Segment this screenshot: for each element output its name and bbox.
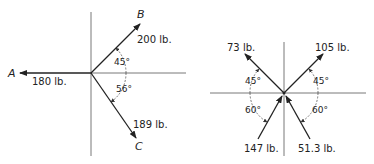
angle-45-right: 45° [313, 76, 329, 86]
angle-45: 45° [114, 57, 130, 67]
vector-105 [284, 54, 323, 93]
label-b-magnitude: 200 lb. [137, 34, 172, 45]
label-a: A [7, 67, 16, 80]
label-73: 73 lb. [227, 42, 255, 53]
angle-60-left: 60° [245, 105, 261, 115]
vector-51-3 [286, 96, 310, 139]
label-147: 147 lb. [244, 143, 279, 154]
angle-56: 56° [116, 84, 132, 94]
label-105: 105 lb. [315, 42, 350, 53]
vector-73 [245, 54, 284, 93]
force-diagrams: B 200 lb. 45° A 180 lb. 56° 189 lb. C 73… [0, 0, 374, 164]
label-51-3: 51.3 lb. [298, 143, 336, 154]
label-c-magnitude: 189 lb. [133, 119, 168, 130]
vector-c [91, 73, 136, 138]
vector-147 [258, 96, 282, 139]
angle-60-right: 60° [312, 105, 328, 115]
label-c: C [135, 140, 143, 153]
origin-point [283, 92, 286, 95]
label-b: B [137, 8, 145, 21]
label-a-magnitude: 180 lb. [32, 76, 67, 87]
right-diagram: 73 lb. 105 lb. 45° 45° 60° 60° 147 lb. 5… [210, 42, 366, 156]
angle-45-left: 45° [245, 76, 261, 86]
left-diagram: B 200 lb. 45° A 180 lb. 56° 189 lb. C [7, 8, 186, 156]
